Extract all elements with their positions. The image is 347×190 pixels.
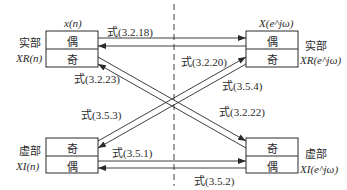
cell-bottom-right-even: 偶	[246, 158, 298, 174]
label-eq-3-5-2: 式(3.5.2)	[194, 175, 234, 187]
label-imag-part-right: 虚部	[305, 148, 327, 160]
label-eq-3-2-23: 式(3.2.23)	[74, 73, 120, 85]
label-real-part-left: 实部	[19, 37, 41, 49]
cell-bottom-left-odd: 奇	[46, 140, 98, 156]
label-XR-ejw: XR(e^jω)	[300, 54, 341, 66]
cell-bottom-left-even: 偶	[46, 158, 98, 174]
label-real-part-right: 实部	[305, 40, 327, 52]
title-X-ejw: X(e^jω)	[259, 17, 293, 29]
label-eq-3-2-18: 式(3.2.18)	[107, 26, 153, 38]
cell-top-right-odd: 奇	[246, 51, 298, 67]
cell-top-right-even: 偶	[246, 33, 298, 49]
cell-top-left-even: 偶	[46, 33, 98, 49]
label-XI-n: XI(n)	[16, 160, 39, 172]
label-eq-3-5-3: 式(3.5.3)	[81, 109, 121, 121]
cell-top-left-odd: 奇	[46, 51, 98, 67]
label-imag-part-left: 虚部	[19, 145, 41, 157]
label-eq-3-2-22: 式(3.2.22)	[219, 106, 265, 118]
label-eq-3-5-1: 式(3.5.1)	[112, 147, 152, 159]
label-XR-n: XR(n)	[16, 52, 42, 64]
title-x-n: x(n)	[64, 17, 82, 29]
label-XI-ejw: XI(e^jω)	[300, 163, 338, 175]
label-eq-3-5-4: 式(3.5.4)	[222, 80, 262, 92]
label-eq-3-2-20: 式(3.2.20)	[181, 56, 227, 68]
cell-bottom-right-odd: 奇	[246, 140, 298, 156]
